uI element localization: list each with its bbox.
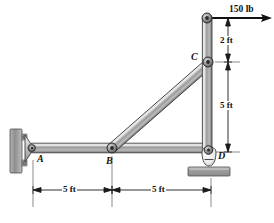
load-label-150lb: 150 lb bbox=[229, 5, 254, 15]
figure-canvas bbox=[0, 0, 274, 223]
pin-joint-top bbox=[202, 13, 212, 23]
dimension-label-bd: 5 ft bbox=[151, 185, 166, 194]
pin-joint-D bbox=[204, 146, 213, 155]
joint-label-C: C bbox=[191, 52, 198, 62]
dimension-label-ab: 5 ft bbox=[62, 185, 77, 194]
mechanics-figure: A B C D 150 lb 5 ft 5 ft 2 ft 5 ft bbox=[0, 0, 274, 223]
pin-joint-A bbox=[29, 145, 36, 152]
member-BC bbox=[106, 58, 214, 154]
load-arrow-150lb bbox=[207, 14, 272, 22]
pin-joint-B bbox=[107, 143, 117, 153]
pin-joint-C bbox=[203, 57, 213, 67]
dimension-label-cd: 5 ft bbox=[219, 101, 234, 110]
joint-label-A: A bbox=[37, 154, 44, 164]
joint-label-D: D bbox=[218, 151, 225, 161]
member-ECD bbox=[202, 14, 212, 156]
joint-label-B: B bbox=[106, 156, 113, 166]
dimension-label-ec: 2 ft bbox=[219, 36, 234, 45]
